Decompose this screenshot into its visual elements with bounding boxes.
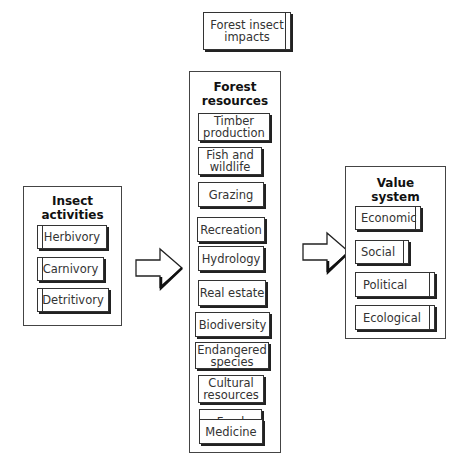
detritivory-label: Detritivory <box>42 294 103 306</box>
grazing-box: Grazing <box>198 182 264 207</box>
forest-resources-title: Forest resources <box>190 80 280 108</box>
item-line-2: wildlife <box>210 161 251 173</box>
timber-production-box: Timber production <box>198 113 270 141</box>
biodiversity-box: Biodiversity <box>195 312 270 337</box>
item-label: Medicine <box>205 426 256 438</box>
insect-activities-panel: Insect activities Herbivory Carnivory De… <box>23 186 122 326</box>
real-estate-box: Real estate <box>198 280 266 306</box>
title-line-1: Value <box>377 176 415 190</box>
item-label: Hydrology <box>202 253 261 265</box>
title-line-2: resources <box>202 94 268 108</box>
economic-label: Economic <box>361 212 417 224</box>
ecological-label: Ecological <box>363 312 421 324</box>
herbivory-box: Herbivory <box>37 225 107 249</box>
value-system-title: Value system <box>346 176 445 204</box>
item-line-1: Endangered <box>197 344 266 356</box>
social-label: Social <box>361 246 395 258</box>
recreation-box: Recreation <box>197 217 265 242</box>
endangered-species-box: Endangered species <box>195 342 269 369</box>
hydrology-box: Hydrology <box>198 246 264 271</box>
item-label: Real estate <box>200 287 265 299</box>
item-line-2: species <box>211 356 254 368</box>
detritivory-box: Detritivory <box>37 288 109 312</box>
title-line-1: Forest <box>214 80 257 94</box>
title-line-2: activities <box>41 208 103 222</box>
item-line-2: production <box>203 127 265 139</box>
item-label: Grazing <box>209 189 254 201</box>
political-label: Political <box>363 279 407 291</box>
arrow-right-icon <box>135 248 185 292</box>
social-box: Social <box>355 240 409 264</box>
item-label: Biodiversity <box>199 319 267 331</box>
carnivory-label: Carnivory <box>43 263 98 275</box>
medicine-box: Medicine <box>199 419 263 444</box>
insect-activities-title: Insect activities <box>24 194 121 222</box>
title-line-1: Insect <box>52 194 93 208</box>
title-line-2: impacts <box>224 31 270 43</box>
value-system-panel: Value system Economic Social Political E… <box>345 166 446 339</box>
item-line-2: resources <box>203 389 259 401</box>
title-line-2: system <box>371 190 420 204</box>
political-box: Political <box>355 272 435 297</box>
ecological-box: Ecological <box>355 305 435 330</box>
item-label: Recreation <box>200 224 262 236</box>
carnivory-box: Carnivory <box>37 257 104 281</box>
fish-and-wildlife-box: Fish and wildlife <box>198 147 262 175</box>
herbivory-label: Herbivory <box>44 231 100 243</box>
cultural-resources-box: Cultural resources <box>198 375 264 403</box>
economic-box: Economic <box>355 206 421 230</box>
forest-resources-panel: Forest resources Timber production Fish … <box>189 71 281 453</box>
forest-insect-impacts-box: Forest insect impacts <box>203 12 291 50</box>
